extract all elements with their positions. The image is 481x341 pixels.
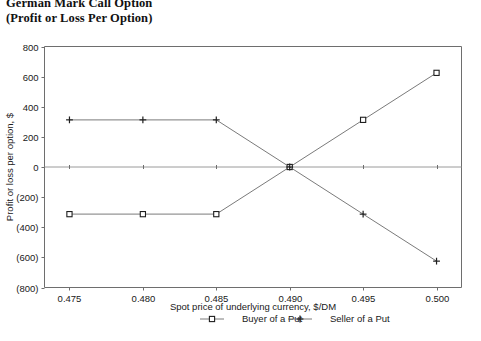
y-tick-label: (200) <box>16 192 38 203</box>
y-tick-label: (800) <box>16 283 38 294</box>
chart-legend: Buyer of a PutSeller of a Put <box>200 313 390 324</box>
x-tick-marks <box>70 165 438 291</box>
x-tick-label: 0.475 <box>58 293 82 304</box>
y-tick-label: (600) <box>16 252 38 263</box>
y-tick-label: 800 <box>23 42 39 53</box>
legend-label: Seller of a Put <box>330 313 390 324</box>
legend-item-1[interactable] <box>200 316 224 321</box>
x-tick-label: 0.500 <box>426 293 450 304</box>
y-tick-label: 400 <box>23 102 39 113</box>
y-tick-label: 200 <box>23 132 39 143</box>
x-tick-label: 0.495 <box>352 293 376 304</box>
y-axis-title: Profit or loss per option, $ <box>4 112 15 221</box>
plot-area: 8006004002000(200)(400)(600)(800) 0.4750… <box>0 0 481 341</box>
y-tick-labels: 8006004002000(200)(400)(600)(800) <box>16 42 38 294</box>
legend-label: Buyer of a Put <box>242 313 303 324</box>
data-point-marker-square <box>434 70 439 75</box>
data-point-marker-square <box>214 212 219 217</box>
y-tick-label: 0 <box>33 162 38 173</box>
chart-figure: German Mark Call Option (Profit or Loss … <box>0 0 481 341</box>
data-point-marker-square <box>361 117 366 122</box>
y-tick-label: 600 <box>23 72 39 83</box>
x-axis-title: Spot price of underlying currency, $/DM <box>170 301 336 312</box>
data-point-marker-square <box>209 316 214 321</box>
y-tick-label: (400) <box>16 222 38 233</box>
data-point-marker-square <box>67 212 72 217</box>
x-tick-label: 0.480 <box>132 293 156 304</box>
chart-svg: 8006004002000(200)(400)(600)(800) 0.4750… <box>0 0 481 341</box>
data-point-marker-square <box>140 212 145 217</box>
